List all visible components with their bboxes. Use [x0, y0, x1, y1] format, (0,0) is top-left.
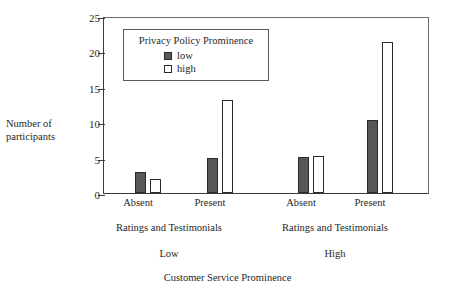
legend: Privacy Policy Prominence low high: [123, 29, 269, 81]
bar-low-absent-highcs: [298, 157, 309, 193]
y-axis-title: Number of participants: [6, 117, 78, 143]
x-group-label-ratings-highcs: Ratings and Testimonials: [270, 222, 400, 233]
x-axis-title: Customer Service Prominence: [0, 272, 455, 283]
legend-title: Privacy Policy Prominence: [124, 34, 268, 49]
legend-label-high: high: [177, 63, 196, 74]
x-super-label-high: High: [305, 248, 365, 259]
bar-chart-figure: Number of participants 25 20 15 10 5 0: [0, 0, 455, 300]
legend-swatch-high-icon: [164, 65, 172, 73]
y-tick-label: 10: [89, 118, 100, 130]
bar-high-absent-highcs: [313, 156, 324, 193]
x-category-label-absent-highcs: Absent: [271, 197, 331, 208]
y-tick-label: 20: [89, 47, 100, 59]
bar-high-present-lowcs: [222, 100, 233, 193]
x-group-label-ratings-lowcs: Ratings and Testimonials: [104, 222, 234, 233]
y-tick-label: 0: [95, 189, 101, 201]
bar-high-present-highcs: [382, 42, 393, 193]
bar-low-present-lowcs: [207, 158, 218, 193]
x-category-label-present-highcs: Present: [340, 197, 400, 208]
y-axis-title-line2: participants: [6, 130, 78, 143]
bar-high-absent-lowcs: [150, 179, 161, 193]
legend-item-high[interactable]: high: [124, 62, 268, 75]
y-axis-title-line1: Number of: [6, 117, 78, 130]
bar-low-present-highcs: [367, 120, 378, 193]
y-tick-label: 15: [89, 83, 100, 95]
y-tick-label: 5: [95, 154, 101, 166]
y-tick-label: 25: [89, 12, 100, 24]
legend-swatch-low-icon: [164, 52, 172, 60]
bar-low-absent-lowcs: [135, 172, 146, 193]
legend-item-low[interactable]: low: [124, 49, 268, 62]
plot-area: 25 20 15 10 5 0: [103, 17, 429, 194]
x-super-label-low: Low: [139, 248, 199, 259]
legend-label-low: low: [177, 50, 193, 61]
x-category-label-present-lowcs: Present: [180, 197, 240, 208]
x-category-label-absent-lowcs: Absent: [108, 197, 168, 208]
